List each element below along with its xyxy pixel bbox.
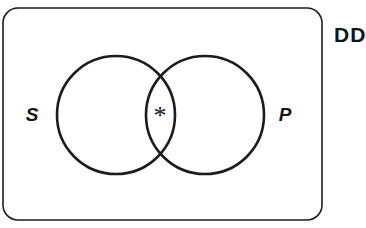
set-label-p: P [279,104,292,125]
universe-label-dd: DD [334,23,366,46]
asterisk-icon: * [154,101,167,130]
venn-diagram-canvas: S P DD * [0,0,366,228]
set-label-s: S [26,104,39,125]
venn-diagram-figure: S P DD * [0,0,366,228]
